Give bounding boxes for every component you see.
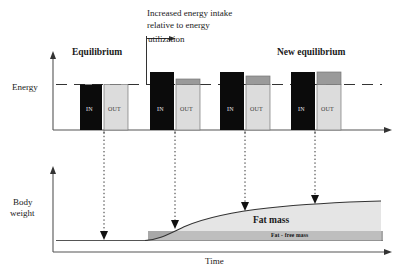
bar-out-excess-4 <box>317 72 341 85</box>
fat-free-mass-label: Fat - free mass <box>271 232 308 238</box>
bar-out-label-4: OUT <box>321 106 334 112</box>
bar-in-4 <box>291 72 315 130</box>
connector-arrow-4 <box>311 132 319 204</box>
fat-mass-label: Fat mass <box>253 215 289 226</box>
figure-vector-layer <box>0 0 411 273</box>
annotation-line-3: utilization <box>148 33 185 45</box>
bar-group-2 <box>150 72 200 130</box>
bar-out-label-1: OUT <box>108 106 121 112</box>
bar-out-excess-3 <box>246 76 270 85</box>
connector-arrow-1 <box>100 132 108 240</box>
x-axis-label-time: Time <box>205 256 224 266</box>
y-axis-label-energy: Energy <box>12 82 38 92</box>
title-equilibrium: Equilibrium <box>72 47 122 58</box>
annotation-line-2: relative to energy <box>147 19 210 31</box>
annotation-line-1: Increased energy intake <box>147 7 232 19</box>
title-new-equilibrium: New equilibrium <box>277 47 345 58</box>
bar-in-label-1: IN <box>86 106 93 112</box>
bar-in-label-3: IN <box>227 106 234 112</box>
connector-arrow-2 <box>171 132 179 229</box>
figure-canvas: Equilibrium New equilibrium Increased en… <box>0 0 411 273</box>
bar-out-label-2: OUT <box>180 106 193 112</box>
y-axis-label-body: Body <box>13 197 33 207</box>
bar-in-label-4: IN <box>298 106 305 112</box>
bar-in-3 <box>220 72 244 130</box>
bar-out-excess-2 <box>176 79 200 85</box>
bar-group-4 <box>291 72 341 130</box>
connector-arrow-3 <box>241 132 249 211</box>
bar-in-label-2: IN <box>157 106 164 112</box>
bar-group-3 <box>220 72 270 130</box>
bar-out-label-3: OUT <box>250 106 263 112</box>
y-axis-label-weight: weight <box>10 208 35 218</box>
bar-in-2 <box>150 72 174 130</box>
